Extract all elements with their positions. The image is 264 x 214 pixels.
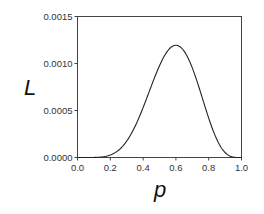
y-tick-label: 0.0005 [43,105,72,116]
x-tick-label: 0.4 [136,162,149,173]
y-tick-label: 0.0010 [43,58,72,69]
y-ticks: 0.00000.00050.00100.0015 [43,11,77,163]
x-axis-label: p [153,177,166,202]
likelihood-curve [78,45,242,157]
y-tick-label: 0.0000 [43,152,72,163]
y-tick-label: 0.0015 [43,11,72,22]
y-axis-label: L [24,75,36,100]
x-tick-label: 1.0 [235,162,248,173]
x-ticks: 0.00.20.40.60.81.0 [71,158,248,173]
x-tick-label: 0.6 [169,162,182,173]
x-tick-label: 0.0 [71,162,84,173]
x-tick-label: 0.2 [104,162,117,173]
likelihood-chart: 0.00000.00050.00100.0015 0.00.20.40.60.8… [0,0,264,214]
plot-frame [77,16,242,158]
x-tick-label: 0.8 [202,162,215,173]
